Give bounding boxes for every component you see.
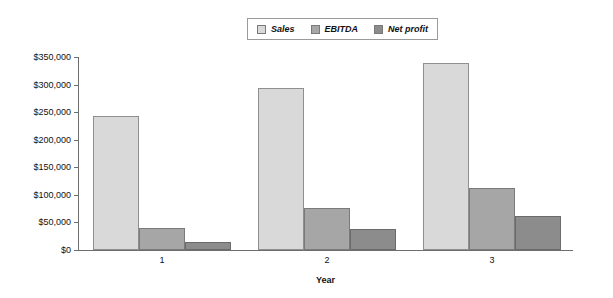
legend-item-label: Sales (271, 25, 295, 34)
y-axis-tick-mark (74, 57, 78, 58)
legend-swatch-icon (374, 25, 383, 34)
y-axis-tick-label: $300,000 (33, 80, 71, 89)
bar-group-year-3 (423, 57, 561, 250)
legend-swatch-icon (257, 25, 266, 34)
x-axis-title: Year (78, 276, 573, 285)
y-axis-tick-label: $150,000 (33, 163, 71, 172)
bar-net-profit-year-2[interactable] (350, 229, 396, 250)
bar-net-profit-year-3[interactable] (515, 216, 561, 250)
bar-chart: SalesEBITDANet profit $0$50,000$100,000$… (0, 0, 613, 298)
y-axis-tick-mark (74, 85, 78, 86)
legend-item-net-profit[interactable]: Net profit (374, 25, 428, 34)
chart-legend: SalesEBITDANet profit (247, 18, 438, 40)
y-axis-tick-label: $350,000 (33, 53, 71, 62)
y-axis-tick-mark (74, 167, 78, 168)
y-axis-tick-label: $250,000 (33, 108, 71, 117)
legend-item-label: Net profit (388, 25, 428, 34)
bar-sales-year-3[interactable] (423, 63, 469, 250)
legend-item-ebitda[interactable]: EBITDA (311, 25, 359, 34)
y-axis-tick-label: $100,000 (33, 190, 71, 199)
bar-group-year-2 (258, 57, 396, 250)
bar-sales-year-2[interactable] (258, 88, 304, 250)
y-axis-tick-label: $200,000 (33, 135, 71, 144)
legend-item-sales[interactable]: Sales (257, 25, 295, 34)
y-axis-tick-mark (74, 250, 78, 251)
y-axis-tick-mark (74, 222, 78, 223)
x-axis-line (78, 250, 573, 251)
x-axis-category-label: 1 (159, 256, 164, 265)
y-axis-line (78, 57, 79, 250)
bar-ebitda-year-1[interactable] (139, 228, 185, 250)
legend-item-label: EBITDA (325, 25, 359, 34)
legend-swatch-icon (311, 25, 320, 34)
bar-net-profit-year-1[interactable] (185, 242, 231, 250)
y-axis-tick-label: $0 (61, 246, 71, 255)
y-axis-tick-mark (74, 140, 78, 141)
bar-sales-year-1[interactable] (93, 116, 139, 250)
y-axis-tick-mark (74, 112, 78, 113)
bar-ebitda-year-2[interactable] (304, 208, 350, 250)
x-axis-category-label: 3 (489, 256, 494, 265)
y-axis-tick-mark (74, 195, 78, 196)
y-axis-tick-label: $50,000 (38, 218, 71, 227)
plot-area: $0$50,000$100,000$150,000$200,000$250,00… (78, 57, 573, 250)
bar-group-year-1 (93, 57, 231, 250)
bar-ebitda-year-3[interactable] (469, 188, 515, 250)
x-axis-category-label: 2 (324, 256, 329, 265)
